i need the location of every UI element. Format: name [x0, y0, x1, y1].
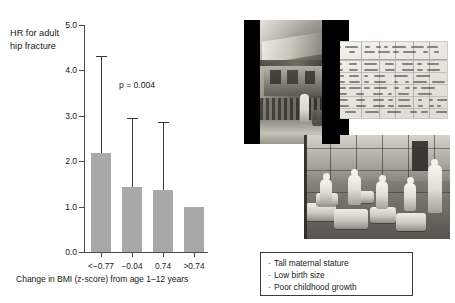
y-tick-label: 5.0	[65, 20, 77, 30]
x-tick-mark	[194, 252, 195, 257]
y-tick-mark	[79, 116, 84, 117]
y-tick-mark	[79, 70, 84, 71]
ledger-handwriting-mark	[437, 105, 441, 107]
ward-bassinet	[370, 207, 396, 223]
ledger-handwriting-mark	[365, 111, 379, 113]
ledger-handwriting-mark	[405, 87, 410, 89]
ledger-handwriting-mark	[398, 105, 411, 107]
ledger-handwriting-mark	[417, 63, 422, 65]
ledger-handwriting-mark	[356, 105, 366, 107]
y-tick-label: 3.0	[65, 111, 77, 121]
ledger-rule-vertical	[413, 42, 414, 118]
house-window	[287, 70, 298, 84]
ward-bassinet	[396, 213, 426, 231]
ledger-handwriting-mark	[416, 75, 430, 77]
ledger-handwriting-mark	[405, 81, 409, 83]
house-window	[305, 71, 315, 84]
ledger-handwriting-mark	[436, 111, 448, 113]
house-window	[270, 70, 281, 84]
bar	[153, 190, 173, 252]
ledger-handwriting-mark	[364, 75, 368, 77]
ledger-handwriting-mark	[376, 46, 381, 48]
ward-figure-head	[323, 173, 330, 180]
ledger-handwriting-mark	[434, 51, 439, 53]
ledger-handwriting-mark	[384, 46, 388, 48]
ledger-handwriting-mark	[373, 105, 385, 107]
ledger-handwriting-mark	[388, 93, 392, 95]
ledger-handwriting-mark	[388, 105, 394, 107]
ledger-handwriting-mark	[345, 46, 358, 48]
ledger-rule-vertical	[395, 42, 396, 118]
ledger-handwriting-mark	[392, 46, 406, 48]
ledger-handwriting-mark	[413, 87, 417, 89]
ledger-handwriting-mark	[374, 81, 386, 83]
ledger-handwriting-mark	[398, 93, 409, 95]
bar-chart-panel: HR for adult hip fracture 0.01.02.03.04.…	[0, 0, 232, 303]
y-axis-line	[84, 25, 85, 252]
y-axis-label-line2: hip fracture	[10, 40, 82, 53]
error-bar-cap	[127, 118, 138, 119]
bar	[91, 153, 111, 252]
film-strip-lower	[322, 117, 340, 144]
ledger-handwriting-mark	[421, 87, 435, 89]
error-bar-cap	[96, 56, 107, 57]
y-axis-label: HR for adult hip fracture	[10, 27, 82, 52]
x-axis-line	[84, 252, 208, 253]
film-strip-left	[244, 20, 260, 144]
ledger-handwriting-mark	[423, 51, 428, 53]
ledger-handwriting-mark	[437, 99, 448, 101]
house-figure	[300, 94, 309, 122]
ledger-handwriting-mark	[411, 46, 424, 48]
error-bar-cap	[158, 122, 169, 123]
ledger-handwriting-mark	[398, 99, 410, 101]
ledger-handwriting-mark	[385, 63, 394, 65]
ledger-handwriting-mark	[364, 51, 375, 53]
x-tick-label: >0.74	[184, 261, 205, 271]
p-value-annotation: p = 0.004	[119, 80, 155, 90]
ledger-handwriting-mark	[374, 87, 387, 89]
ledger-handwriting-mark	[421, 111, 428, 113]
ledger-handwriting-mark	[394, 81, 398, 83]
ledger-handwriting-mark	[364, 81, 369, 83]
ledger-handwriting-mark	[427, 46, 438, 48]
ledger-handwriting-mark	[388, 99, 393, 101]
ward-figure-head	[431, 159, 438, 166]
x-tick-mark	[132, 252, 133, 257]
ledger-handwriting-mark	[429, 105, 434, 107]
x-tick-mark	[101, 252, 102, 257]
key-finding-label: Low birth size	[274, 270, 325, 280]
ward-attendant	[348, 175, 361, 205]
ledger-handwriting-mark	[356, 93, 364, 95]
ledger-handwriting-mark	[345, 111, 356, 113]
key-finding-item: ·Tall maternal stature	[268, 257, 406, 269]
ledger-handwriting-mark	[349, 75, 359, 77]
ledger-handwriting-mark	[373, 99, 384, 101]
ledger-handwriting-mark	[427, 69, 440, 71]
ledger-handwriting-mark	[349, 63, 357, 65]
historic-hospital-nursery-photograph	[304, 135, 450, 239]
key-findings-box: ·Tall maternal stature·Low birth size·Po…	[260, 252, 413, 296]
bar	[184, 207, 204, 252]
ledger-handwriting-mark	[378, 51, 390, 53]
ward-doorway	[412, 141, 428, 171]
ledger-handwriting-mark	[402, 69, 414, 71]
x-tick-mark	[163, 252, 164, 257]
key-finding-item: ·Poor childhood growth	[268, 281, 406, 293]
x-axis-label: Change in BMI (z-score) from age 1–12 ye…	[16, 274, 232, 284]
ward-bassinet	[334, 209, 368, 229]
ward-standing-nurse	[428, 165, 442, 213]
ledger-handwriting-mark	[394, 75, 408, 77]
x-tick-label: <−0.77	[88, 261, 114, 271]
ledger-handwriting-mark	[417, 69, 423, 71]
ledger-handwriting-mark	[418, 99, 422, 101]
ledger-handwriting-mark	[418, 93, 432, 95]
key-finding-label: Poor childhood growth	[274, 282, 357, 292]
ledger-handwriting-mark	[349, 51, 355, 53]
y-tick-mark	[79, 25, 84, 26]
plot-area: 0.01.02.03.04.05.0 <−0.77−0.040.74>0.74	[84, 25, 208, 252]
ledger-handwriting-mark	[429, 99, 433, 101]
bar	[122, 187, 142, 252]
error-bar-stem	[132, 118, 133, 187]
ledger-handwriting-mark	[374, 75, 385, 77]
y-tick-mark	[79, 252, 84, 253]
